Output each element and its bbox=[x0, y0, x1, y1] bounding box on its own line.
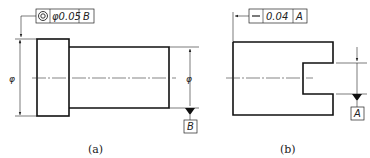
caption-b: (b) bbox=[280, 143, 296, 156]
figure-a: φ0.05 B φ φ B (a) bbox=[9, 9, 199, 156]
diameter-symbol-left: φ bbox=[9, 74, 15, 84]
fcf-a-datum: B bbox=[83, 11, 90, 22]
fcf-a-tolerance: φ0.05 bbox=[52, 11, 81, 22]
drawing-canvas: φ0.05 B φ φ B (a) bbox=[0, 0, 370, 158]
figure-b: 0.04 A A (b) bbox=[226, 9, 367, 156]
fcf-b-datum: A bbox=[295, 11, 303, 22]
fcf-a: φ0.05 B bbox=[36, 9, 94, 23]
fcf-b-tolerance: 0.04 bbox=[266, 11, 288, 22]
datum-label-b: B bbox=[187, 121, 194, 132]
fcf-b: 0.04 A bbox=[249, 9, 307, 23]
caption-a: (a) bbox=[88, 143, 103, 156]
datum-triangle-b bbox=[185, 108, 195, 115]
diameter-symbol-right: φ bbox=[186, 74, 192, 84]
datum-triangle-a bbox=[352, 94, 362, 101]
datum-label-a: A bbox=[353, 108, 361, 119]
